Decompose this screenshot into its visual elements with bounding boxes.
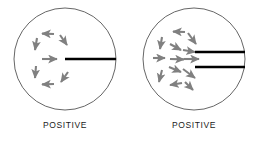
arrow-icon xyxy=(183,69,195,78)
right-diagram xyxy=(129,0,259,118)
arrow-icon xyxy=(170,44,181,50)
left-diagram xyxy=(0,0,130,118)
arrow-icon xyxy=(35,66,36,78)
arrow-icon xyxy=(185,82,193,90)
panel-right-caption: POSITIVE xyxy=(129,120,259,131)
arrow-icon xyxy=(183,50,195,52)
arrow-icon xyxy=(188,33,196,44)
panel-left: POSITIVE xyxy=(0,0,130,142)
arrow-icon xyxy=(61,72,68,82)
panel-left-caption: POSITIVE xyxy=(0,120,130,131)
arrow-icon xyxy=(160,37,162,49)
arrow-icon xyxy=(60,35,67,45)
arrow-group xyxy=(153,32,199,90)
arrow-icon xyxy=(169,67,181,72)
arrow-icon xyxy=(170,83,182,85)
arrow-group xyxy=(35,34,68,85)
arrow-icon xyxy=(35,38,37,50)
arrow-icon xyxy=(159,70,162,82)
figure-root: POSITIVE xyxy=(0,0,259,142)
panel-right: POSITIVE xyxy=(129,0,259,142)
